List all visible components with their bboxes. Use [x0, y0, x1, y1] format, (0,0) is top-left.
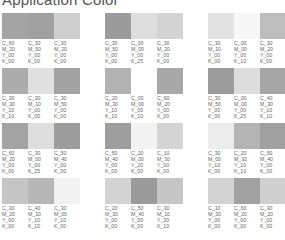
cmyk-k-value: K_00 [54, 113, 80, 119]
cmyk-k-value: K_00 [260, 223, 285, 229]
swatch-group: C_60M_20Y_00K_00C_30M_50Y_00K_00C_30M_20… [2, 13, 105, 68]
cmyk-k-value: K_10 [234, 168, 260, 174]
cmyk-label: C_40M_30Y_10K_10 [260, 95, 285, 119]
color-swatch-cell: C_30M_50Y_00K_00 [208, 68, 234, 123]
cmyk-k-value: K_25 [234, 113, 260, 119]
color-swatch-cell: C_00M_00Y_00K_25 [234, 68, 260, 123]
cmyk-label: C_30M_50Y_00K_00 [54, 95, 80, 119]
cmyk-k-value: K_10 [131, 113, 157, 119]
swatch-row: C_60M_20Y_00K_00C_30M_50Y_00K_00C_30M_20… [2, 13, 285, 68]
color-swatch [131, 13, 157, 39]
cmyk-label: C_50M_40Y_00K_00 [105, 150, 131, 174]
cmyk-k-value: K_00 [157, 58, 183, 64]
cmyk-label: C_10M_30Y_00K_00 [157, 150, 183, 174]
color-swatch-cell: C_20M_00Y_20K_00 [131, 123, 157, 178]
cmyk-k-value: K_00 [54, 223, 80, 229]
color-swatch [54, 123, 80, 149]
cmyk-k-value: K_00 [28, 58, 54, 64]
color-swatch [234, 123, 260, 149]
color-swatch-grid: C_60M_20Y_00K_00C_30M_50Y_00K_00C_30M_20… [2, 13, 285, 233]
color-swatch [2, 13, 28, 39]
cmyk-k-value: K_10 [105, 113, 131, 119]
cmyk-label: C_60M_20Y_00K_00 [2, 40, 28, 64]
cmyk-k-value: K_00 [157, 113, 183, 119]
color-swatch-cell: C_30M_30Y_10K_10 [2, 68, 28, 123]
color-swatch [234, 68, 260, 94]
cmyk-label: C_30M_50Y_00K_00 [105, 40, 131, 64]
cmyk-k-value: K_00 [2, 168, 28, 174]
color-palette-page: Application Color C_60M_20Y_00K_00C_30M_… [0, 0, 285, 240]
color-swatch-cell: C_00M_00Y_00K_10 [131, 68, 157, 123]
cmyk-k-value: K_00 [2, 223, 28, 229]
color-swatch-cell: C_30M_50Y_00K_00 [105, 13, 131, 68]
color-swatch-cell: C_60M_20Y_00K_00 [157, 68, 183, 123]
cmyk-k-value: K_00 [131, 223, 157, 229]
swatch-group: C_20M_30Y_10K_10C_00M_00Y_00K_10C_60M_20… [105, 68, 208, 123]
color-swatch [131, 68, 157, 94]
cmyk-k-value: K_00 [54, 168, 80, 174]
swatch-group: C_30M_20Y_00K_00C_40M_10Y_10K_10C_30M_00… [2, 178, 105, 233]
color-swatch [260, 178, 285, 204]
color-swatch-cell: C_30M_10Y_30K_10 [157, 178, 183, 233]
color-swatch-cell: C_20M_30Y_00K_00 [105, 178, 131, 233]
cmyk-label: C_30M_00Y_00K_25 [28, 150, 54, 174]
color-swatch-cell: C_30M_00Y_10K_00 [208, 123, 234, 178]
cmyk-label: C_30M_20Y_00K_00 [2, 205, 28, 229]
color-swatch-cell: C_10M_30Y_00K_00 [208, 178, 234, 233]
cmyk-label: C_50M_40Y_00K_00 [260, 150, 285, 174]
swatch-group: C_30M_50Y_00K_00C_00M_00Y_00K_25C_40M_30… [208, 68, 285, 123]
cmyk-k-value: K_10 [28, 223, 54, 229]
color-swatch-cell: C_30M_00Y_00K_25 [28, 123, 54, 178]
color-swatch-cell: C_30M_10Y_00K_00 [28, 68, 54, 123]
color-swatch [157, 68, 183, 94]
swatch-group: C_30M_30Y_10K_10C_30M_10Y_00K_00C_30M_50… [2, 68, 105, 123]
color-swatch-cell: C_40M_30Y_10K_10 [260, 68, 285, 123]
color-swatch [28, 13, 54, 39]
color-swatch-cell: C_50M_40Y_00K_00 [131, 178, 157, 233]
color-swatch-cell: C_30M_20Y_00K_00 [157, 13, 183, 68]
cmyk-label: C_60M_20Y_00K_00 [234, 205, 260, 229]
color-swatch-cell: C_30M_20Y_00K_00 [260, 13, 285, 68]
cmyk-k-value: K_00 [54, 58, 80, 64]
cmyk-k-value: K_10 [157, 223, 183, 229]
cmyk-label: C_30M_30Y_10K_10 [2, 95, 28, 119]
cmyk-label: C_00M_00Y_00K_25 [131, 40, 157, 64]
cmyk-k-value: K_10 [260, 113, 285, 119]
color-swatch [105, 123, 131, 149]
color-swatch-cell: C_60M_20Y_00K_00 [2, 123, 28, 178]
cmyk-label: C_30M_00Y_10K_00 [54, 205, 80, 229]
cmyk-k-value: K_00 [208, 223, 234, 229]
color-swatch-cell: C_30M_50Y_00K_00 [54, 68, 80, 123]
cmyk-label: C_30M_10Y_00K_00 [208, 40, 234, 64]
swatch-group: C_60M_20Y_00K_00C_30M_00Y_00K_25C_50M_40… [2, 123, 105, 178]
cmyk-k-value: K_25 [131, 58, 157, 64]
color-swatch-cell: C_50M_40Y_00K_00 [260, 123, 285, 178]
cmyk-k-value: K_00 [105, 223, 131, 229]
color-swatch [208, 123, 234, 149]
color-swatch [2, 68, 28, 94]
cmyk-label: C_40M_10Y_10K_10 [28, 205, 54, 229]
color-swatch [260, 13, 285, 39]
color-swatch [208, 68, 234, 94]
cmyk-k-value: K_00 [260, 58, 285, 64]
color-swatch-cell: C_40M_10Y_10K_10 [28, 178, 54, 233]
cmyk-label: C_60M_20Y_00K_00 [157, 95, 183, 119]
color-swatch-cell: C_30M_50Y_00K_00 [28, 13, 54, 68]
color-swatch-cell: C_30M_00Y_10K_00 [54, 178, 80, 233]
cmyk-label: C_30M_20Y_00K_00 [260, 40, 285, 64]
color-swatch [105, 178, 131, 204]
color-swatch [105, 68, 131, 94]
cmyk-k-value: K_10 [2, 113, 28, 119]
cmyk-label: C_30M_00Y_10K_00 [208, 150, 234, 174]
color-swatch [54, 178, 80, 204]
color-swatch-cell: C_00M_00Y_00K_10 [234, 13, 260, 68]
color-swatch-cell: C_20M_30Y_10K_10 [234, 123, 260, 178]
cmyk-label: C_20M_30Y_10K_10 [234, 150, 260, 174]
swatch-group: C_50M_40Y_00K_00C_20M_00Y_20K_00C_10M_30… [105, 123, 208, 178]
color-swatch [157, 13, 183, 39]
color-swatch [28, 178, 54, 204]
swatch-group: C_30M_10Y_00K_00C_00M_00Y_00K_10C_30M_20… [208, 13, 285, 68]
cmyk-label: C_30M_20Y_00K_00 [54, 40, 80, 64]
swatch-group: C_20M_30Y_00K_00C_50M_40Y_00K_00C_30M_10… [105, 178, 208, 233]
color-swatch [2, 123, 28, 149]
